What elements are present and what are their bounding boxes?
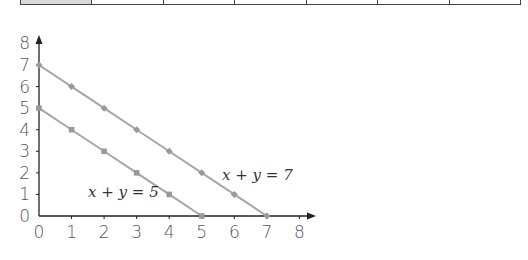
square-marker-icon	[134, 170, 140, 176]
y-axis-arrow-icon	[36, 35, 43, 44]
x-tick-label: 8	[294, 222, 305, 242]
axes: 012345678012345678	[19, 33, 316, 242]
square-marker-icon	[69, 127, 75, 133]
y-tick-label: 7	[19, 55, 30, 75]
y-tick-label: 0	[19, 206, 30, 226]
y-tick-label: 4	[19, 120, 30, 140]
line-chart: 012345678012345678 x + y = 7 x + y = 5	[0, 0, 528, 260]
square-marker-icon	[101, 148, 107, 154]
y-tick-label: 3	[19, 141, 30, 161]
y-tick-label: 2	[19, 163, 30, 183]
square-marker-icon	[199, 213, 205, 219]
y-tick-label: 1	[19, 184, 30, 204]
y-tick-label: 8	[19, 33, 30, 53]
y-tick-label: 5	[19, 98, 30, 118]
x-tick-label: 2	[99, 222, 110, 242]
x-tick-label: 7	[261, 222, 272, 242]
x-axis-arrow-icon	[307, 213, 316, 220]
x-tick-label: 1	[66, 222, 77, 242]
label-eq5: x + y = 5	[88, 183, 159, 201]
x-tick-label: 5	[196, 222, 207, 242]
y-tick-label: 6	[19, 77, 30, 97]
x-tick-label: 3	[131, 222, 142, 242]
series-x-plus-y-5	[36, 105, 204, 218]
label-eq7: x + y = 7	[222, 166, 293, 184]
x-tick-label: 6	[229, 222, 240, 242]
square-marker-icon	[166, 192, 172, 198]
x-tick-label: 0	[34, 222, 45, 242]
x-tick-label: 4	[164, 222, 175, 242]
square-marker-icon	[36, 105, 42, 111]
